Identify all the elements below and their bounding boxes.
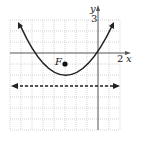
x-tick-label: 2 [117,54,123,64]
graph [0,0,141,144]
focus-point [62,61,67,66]
directrix-arrow-left-icon [11,83,18,89]
focus-label: F [55,57,62,67]
y-tick-label: 3 [91,14,97,24]
directrix-arrow-right-icon [113,83,120,89]
y-axis-arrow-icon [96,5,100,11]
x-axis-label: x [126,54,132,64]
